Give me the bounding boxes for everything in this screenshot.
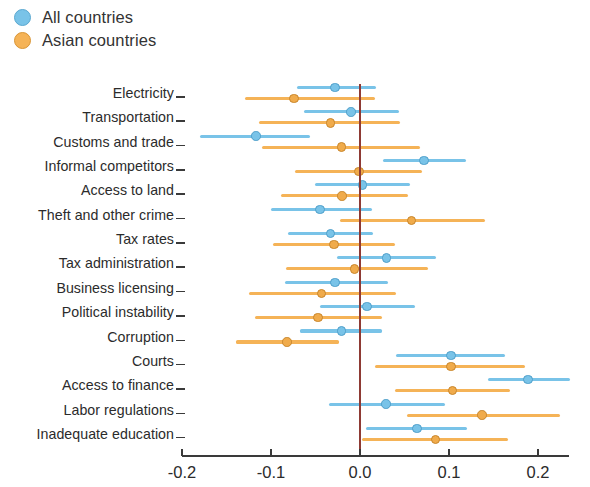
category-label: Corruption <box>107 330 174 344</box>
data-point-marker <box>289 94 299 104</box>
data-point-marker <box>330 83 340 93</box>
category-tick-mark <box>176 266 185 268</box>
data-point-marker <box>446 351 456 361</box>
confidence-interval-line <box>245 97 375 100</box>
data-point-marker <box>382 253 392 263</box>
x-axis-tick-mark <box>181 449 183 456</box>
category-tick-mark <box>176 218 185 220</box>
data-point-marker <box>381 399 391 409</box>
category-label: Inadequate education <box>37 427 174 441</box>
category-label: Informal competitors <box>44 159 174 173</box>
plot-area: ElectricityTransportationCustoms and tra… <box>0 0 590 487</box>
x-axis-tick-mark <box>359 449 361 456</box>
data-point-marker <box>337 191 347 201</box>
data-point-marker <box>362 302 372 312</box>
x-axis-tick-label: 0.0 <box>349 464 372 481</box>
category-label: Labor regulations <box>64 403 174 417</box>
category-label: Political instability <box>62 305 174 319</box>
x-axis-tick-mark <box>537 449 539 456</box>
data-point-marker <box>337 142 347 152</box>
category-tick-mark <box>176 169 185 171</box>
x-axis-tick-label: 0.2 <box>527 464 550 481</box>
category-tick-mark <box>176 437 185 439</box>
category-label: Customs and trade <box>53 135 174 149</box>
data-point-marker <box>317 289 327 299</box>
category-tick-mark <box>176 340 185 342</box>
x-axis-line <box>182 455 569 457</box>
x-axis-tick-label: -0.1 <box>257 464 285 481</box>
data-point-marker <box>412 424 422 434</box>
category-tick-mark <box>176 145 185 147</box>
data-point-marker <box>329 240 339 250</box>
category-label: Access to land <box>81 183 174 197</box>
category-tick-mark <box>176 96 185 98</box>
data-point-marker <box>523 375 533 385</box>
data-point-marker <box>446 362 456 372</box>
category-tick-mark <box>176 242 185 244</box>
data-point-marker <box>419 156 429 166</box>
data-point-marker <box>313 313 323 323</box>
data-point-marker <box>282 337 292 347</box>
forest-plot-chart: All countries Asian countries Electricit… <box>0 0 590 487</box>
data-point-marker <box>477 410 487 420</box>
category-tick-mark <box>176 413 185 415</box>
data-point-marker <box>448 386 458 396</box>
category-label: Electricity <box>113 86 174 100</box>
category-tick-mark <box>176 388 185 390</box>
category-label: Transportation <box>82 110 174 124</box>
data-point-marker <box>326 118 336 128</box>
data-point-marker <box>326 229 336 239</box>
data-point-marker <box>251 131 261 141</box>
x-axis-tick-label: 0.1 <box>438 464 461 481</box>
data-point-marker <box>337 326 347 336</box>
category-tick-mark <box>176 193 185 195</box>
category-label: Tax rates <box>116 232 174 246</box>
x-axis-tick-label: -0.2 <box>168 464 196 481</box>
category-label: Business licensing <box>56 281 174 295</box>
data-point-marker <box>330 278 340 288</box>
category-label: Courts <box>132 354 174 368</box>
data-point-marker <box>431 435 441 445</box>
category-tick-mark <box>176 291 185 293</box>
x-axis-tick-mark <box>448 449 450 456</box>
category-tick-mark <box>176 120 185 122</box>
category-tick-mark <box>176 364 185 366</box>
zero-reference-line <box>359 84 361 455</box>
data-point-marker <box>315 205 325 215</box>
data-point-marker <box>346 107 356 117</box>
category-label: Tax administration <box>59 256 174 270</box>
data-point-marker <box>407 216 417 226</box>
category-label: Access to finance <box>62 378 174 392</box>
x-axis-tick-mark <box>270 449 272 456</box>
category-label: Theft and other crime <box>38 208 174 222</box>
category-tick-mark <box>176 315 185 317</box>
